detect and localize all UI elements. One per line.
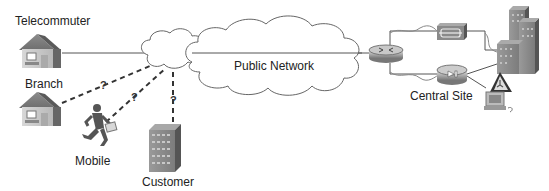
telecommuter-label: Telecommuter [15, 14, 90, 28]
mobile-label: Mobile [75, 154, 110, 168]
unknown-marker-mobile: ? [131, 91, 138, 103]
central-site-label: Central Site [410, 89, 473, 103]
customer-building-icon [149, 124, 181, 172]
router-icon [369, 45, 403, 63]
workstation-icon [484, 72, 512, 112]
unknown-marker-branch: ? [100, 79, 107, 91]
public-network-cloud-icon [186, 16, 362, 95]
headquarters-building-icon [497, 6, 539, 74]
unknown-marker-customer: ? [170, 94, 177, 106]
customer-label: Customer [142, 175, 194, 189]
branch-label: Branch [25, 77, 63, 91]
telecommuter-house-icon [19, 34, 61, 68]
mobile-running-person-icon [82, 104, 117, 146]
branch-house-icon [19, 92, 61, 126]
firewall-icon [437, 23, 467, 40]
public-network-label: Public Network [234, 59, 314, 73]
vpn-concentrator-icon [437, 65, 467, 85]
